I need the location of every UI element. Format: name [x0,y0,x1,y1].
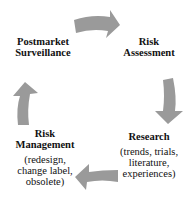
node-postmarket-surveillance: Postmarket Surveillance [10,36,76,58]
node-title: Postmarket [10,36,76,47]
node-subtitle: obsolete) [12,176,78,187]
node-research: Research (trends, trials, literature, ex… [116,131,182,179]
node-title: Risk [119,36,179,47]
arrow-up-icon [13,82,38,125]
node-subtitle: (redesign, [12,154,78,165]
node-title: Management [12,139,78,150]
arrow-left-icon [75,164,118,190]
node-subtitle: literature, [116,157,182,168]
node-subtitle: change label, [12,165,78,176]
node-risk-management: Risk Management (redesign, change label,… [12,128,78,187]
node-title: Surveillance [10,47,76,58]
arrow-down-icon [155,78,183,124]
node-subtitle: experiences) [116,168,182,179]
node-title: Risk [12,128,78,139]
node-title: Assessment [119,47,179,58]
node-subtitle: (trends, trials, [116,146,182,157]
arrow-right-icon [74,10,120,38]
node-risk-assessment: Risk Assessment [119,36,179,58]
node-title: Research [116,131,182,142]
